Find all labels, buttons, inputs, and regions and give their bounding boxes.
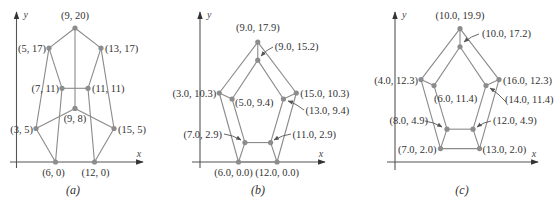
vertex-point [236,159,241,164]
panel-c: xy(10.0, 19.9)(10.0, 17.2)(4.0, 12.3)(16… [374,9,554,197]
vertex-point [217,90,222,95]
vertex-label: (16.0, 12.3) [503,75,552,87]
y-axis-label: y [206,9,212,20]
vertex-point [496,77,501,82]
vertex-point [477,146,482,151]
edge [88,88,95,162]
vertex-point [268,140,273,145]
panel-a: xy(9, 20)(5, 17)(13, 17)(7, 11)(11, 11)(… [10,9,146,197]
vertex-point [274,159,279,164]
vertex-label: (7.0, 2.9) [183,129,222,141]
edge [219,42,258,93]
edge [232,60,258,99]
vertex-point [457,44,462,49]
vertex-label: (3.0, 10.3) [173,88,217,100]
vertex-label: (9.0, 15.2) [275,41,319,53]
edge [49,48,62,88]
vertex-point [46,46,51,51]
edge [434,47,460,86]
vertex-point [98,46,103,51]
edge [460,47,486,86]
edge [421,29,460,80]
vertex-label: (13.0, 9.4) [305,105,349,117]
vertex-point [53,159,58,164]
edge [473,129,480,148]
vertex-label: (3, 5) [10,124,33,136]
edge [36,129,56,163]
vertex-label: (11, 11) [92,83,125,95]
vertex-point [230,96,235,101]
y-axis-label: y [23,9,29,20]
vertex-label: (7.0, 2.0) [398,144,437,156]
vertex-point [33,126,38,131]
vertex-point [72,25,77,30]
vertex-label: (14.0, 11.4) [505,94,554,106]
panel-caption: (b) [251,183,265,197]
figure-canvas: xy(9, 20)(5, 17)(13, 17)(7, 11)(11, 11)(… [0,0,558,207]
vertex-point [92,159,97,164]
callout-arrow [477,121,491,127]
vertex-point [483,83,488,88]
vertex-label: (7, 11) [31,83,59,95]
vertex-label: (9, 8) [64,113,87,125]
vertex-label: (10.0, 19.9) [436,10,485,22]
vertex-label: (15, 5) [118,124,146,136]
vertex-point [85,86,90,91]
vertex-point [470,127,475,132]
y-axis-label: y [401,9,407,20]
vertex-point [111,126,116,131]
vertex-label: (12.0, 4.9) [493,115,537,127]
vertex-point [255,58,260,63]
edge [88,48,101,88]
edge [49,28,75,48]
vertex-point [242,140,247,145]
vertex-point [444,127,449,132]
vertex-point [457,26,462,31]
edge [480,80,500,149]
vertex-label: (4.0, 12.3) [374,75,418,87]
x-axis-label: x [318,148,324,159]
edge [239,143,245,162]
vertex-point [59,86,64,91]
edge [421,80,441,149]
vertex-label: (6, 0) [42,167,65,179]
vertex-label: (12, 0) [82,167,110,179]
edge [95,129,115,163]
vertex-label: (5, 17) [18,43,46,55]
edge [75,28,101,48]
vertex-label: (13, 17) [105,43,139,55]
callout-arrow [490,88,506,102]
edge [271,143,277,162]
figure-stage: xy(9, 20)(5, 17)(13, 17)(7, 11)(11, 11)(… [0,0,558,207]
vertex-point [72,106,77,111]
panel-b: xy(9.0, 17.9)(9.0, 15.2)(3.0, 10.3)(15.0… [173,9,350,197]
vertex-point [255,39,260,44]
callout-arrow [274,134,291,140]
vertex-label: (13.0, 2.0) [483,144,527,156]
edge [258,60,284,99]
vertex-label: (15.0, 10.3) [300,88,349,100]
vertex-point [431,83,436,88]
callout-arrow [288,101,304,110]
panel-caption: (a) [66,183,80,197]
vertex-label: (10.0, 17.2) [482,28,531,40]
vertex-label: (8.0, 4.9) [390,115,429,127]
vertex-point [418,77,423,82]
vertex-label: (6.0, 0.0) [214,167,253,179]
vertex-label: (9, 20) [61,10,89,22]
vertex-label: (5.0, 9.4) [235,97,274,109]
edge [441,129,448,148]
edge [56,88,63,162]
callout-arrow [464,34,479,42]
vertex-label: (9.0, 17.9) [236,22,280,34]
vertex-label: (12.0, 0.0) [255,167,299,179]
vertex-label: (11.0, 2.9) [293,129,337,141]
vertex-point [438,146,443,151]
panel-caption: (c) [455,183,468,197]
vertex-point [294,90,299,95]
x-axis-label: x [136,148,142,159]
x-axis-label: x [531,148,537,159]
vertex-point [281,96,286,101]
vertex-label: (6.0, 11.4) [434,93,478,105]
